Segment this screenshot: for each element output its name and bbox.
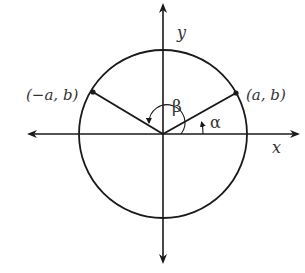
point-a-b-label: (a, b) [246,86,286,104]
alpha-arc [202,122,204,134]
x-axis-label: x [272,138,281,157]
radius-to-neg-a-b [93,92,163,134]
point-a-b [233,90,238,95]
beta-label: β [172,96,182,116]
alpha-label: α [210,113,221,132]
unit-circle-diagram: y x (a, b) (−a, b) β α [0,0,305,273]
point-neg-a-b [90,89,95,94]
point-neg-a-b-label: (−a, b) [26,86,79,104]
y-axis-label: y [176,23,187,42]
